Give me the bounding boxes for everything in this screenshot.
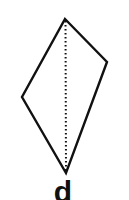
dotted-diagonal	[66, 21, 67, 171]
kite-outline	[22, 19, 107, 173]
figure-label: d	[50, 177, 76, 200]
kite-diagram	[0, 0, 129, 200]
